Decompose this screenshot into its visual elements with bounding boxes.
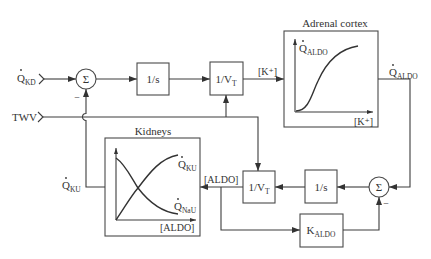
kidneys-block: Kidneys QKU QNaU [ALDO] [105,125,200,236]
potassium-concentration-label: [K⁺] [258,66,277,77]
sigma-icon: Σ [376,181,382,193]
signal-arrow-aldo-secretion [378,79,410,187]
aldosterone-output-label: QALDO [389,66,418,81]
input-chevron-icon [39,74,44,84]
kidneys-title: Kidneys [135,125,172,137]
kidneys-x-axis-label: [ALDO] [160,222,194,233]
signal-arrow-excretion-feedback [83,89,105,187]
clearance-block: KALDO [300,214,343,247]
adrenal-cortex-block: Adrenal cortex QALDO [K⁺] [284,17,378,127]
minus-sign: − [74,92,80,103]
input-potassium-intake: QKD [17,69,44,86]
integrator-block-bottom: 1/s [305,170,337,203]
integrator-block-top: 1/s [137,63,169,95]
input-chevron-icon [38,112,43,122]
volume-divider-block-top: 1/VT [210,62,243,95]
integrator-bottom-label: 1/s [315,181,328,193]
summing-junction-top: Σ − [74,69,96,103]
input-potassium-intake-label: QKD [17,72,36,87]
integrator-top-label: 1/s [147,73,160,85]
input-twv-label: TWV [12,111,37,123]
potassium-excretion-label: QKU [62,179,81,194]
minus-sign: − [383,198,389,209]
input-twv: TWV [12,111,43,123]
adrenal-cortex-title: Adrenal cortex [302,17,368,29]
volume-divider-block-bottom: 1/VT [243,171,275,203]
block-diagram: QKD Σ − 1/s 1/VT [K⁺] Adrenal cortex QAL… [0,0,431,259]
adrenal-x-axis-label: [K⁺] [354,116,373,127]
sigma-icon: Σ [83,73,89,85]
overdot-icon [20,69,22,71]
aldosterone-concentration-label: [ALDO] [204,174,238,185]
signal-arrow-clearance-to-sum [343,197,379,230]
